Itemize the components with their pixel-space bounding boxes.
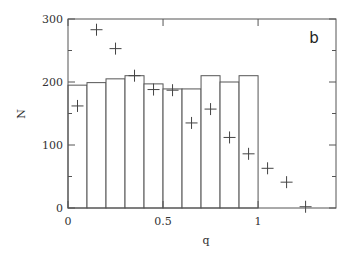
- y-tick-label: 200: [42, 76, 63, 89]
- plus-marker: [110, 43, 122, 55]
- histogram-bar: [106, 79, 125, 208]
- histogram-bar: [144, 84, 163, 208]
- histogram-bar: [87, 83, 106, 208]
- histogram-bar: [239, 76, 258, 208]
- y-tick-label: 100: [42, 139, 63, 152]
- x-tick-label: 1: [255, 215, 262, 228]
- histogram-bar: [125, 76, 144, 208]
- plus-marker: [300, 201, 312, 213]
- x-tick-label: 0: [65, 215, 72, 228]
- y-tick-label: 0: [56, 202, 63, 215]
- plus-marker: [262, 162, 274, 174]
- histogram-bar: [201, 76, 220, 208]
- panel-label: b: [309, 29, 319, 47]
- y-tick-label: 300: [42, 13, 63, 26]
- chart: 00.510100200300 q N b: [0, 0, 352, 255]
- plus-marker: [281, 176, 293, 188]
- x-axis-label: q: [202, 234, 209, 247]
- x-tick-label: 0.5: [154, 215, 172, 228]
- plus-marker: [91, 24, 103, 36]
- histogram-bar: [220, 82, 239, 208]
- histogram-bar: [163, 89, 182, 208]
- y-axis-label: N: [15, 109, 28, 119]
- histogram-bar: [182, 89, 201, 208]
